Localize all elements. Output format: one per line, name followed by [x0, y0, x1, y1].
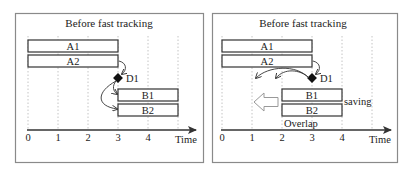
- panel-title: Before fast tracking: [259, 17, 347, 29]
- tick-label: 3: [115, 132, 120, 143]
- overlap-label: Overlap: [284, 118, 318, 129]
- shift-left-arrow-icon: [254, 93, 278, 111]
- panel-title: Before fast tracking: [65, 17, 153, 29]
- bar-label: A2: [67, 56, 80, 67]
- bar-label: B2: [306, 105, 318, 116]
- panel-after: Before fast tracking A1 A2 B1 B2 D1: [213, 14, 398, 163]
- bar-label: A2: [261, 56, 274, 67]
- bar-label: B1: [142, 90, 154, 101]
- tick-label: 1: [55, 132, 60, 143]
- bar-label: B2: [142, 105, 154, 116]
- fast-tracking-diagram: Before fast tracking A1 A2 B1 B2 D1: [0, 0, 415, 172]
- tick-label: 3: [309, 132, 314, 143]
- tick-label: 4: [145, 132, 151, 143]
- bar-a1: A1: [222, 40, 312, 52]
- axis-label: Time: [369, 134, 391, 145]
- dependency-arrow: [113, 81, 117, 94]
- bar-label: A1: [67, 41, 80, 52]
- saving-label: saving: [344, 96, 372, 107]
- dependency-arrow: [101, 81, 117, 109]
- tick-label: 0: [25, 132, 30, 143]
- bar-b2: B2: [118, 104, 178, 116]
- dependency-arrow: [276, 71, 309, 78]
- tick-label: 2: [279, 132, 284, 143]
- bar-b1: B1: [118, 89, 178, 101]
- dependency-arrow: [313, 61, 319, 74]
- tick-label: 1: [249, 132, 254, 143]
- bar-a1: A1: [28, 40, 118, 52]
- bar-a2: A2: [222, 55, 312, 67]
- panel-before: Before fast tracking A1 A2 B1 B2 D1: [16, 14, 204, 163]
- dependency-arrow: [119, 61, 125, 74]
- tick-label: 4: [339, 132, 345, 143]
- axis-label: Time: [175, 134, 197, 145]
- tick-label: 2: [85, 132, 90, 143]
- bar-label: A1: [261, 41, 274, 52]
- bar-b2: B2: [282, 104, 342, 116]
- bar-b1: B1: [282, 89, 342, 101]
- decision-label: D1: [126, 73, 139, 84]
- decision-label: D1: [320, 73, 333, 84]
- tick-label: 0: [219, 132, 224, 143]
- bar-label: B1: [306, 90, 318, 101]
- bar-a2: A2: [28, 55, 118, 67]
